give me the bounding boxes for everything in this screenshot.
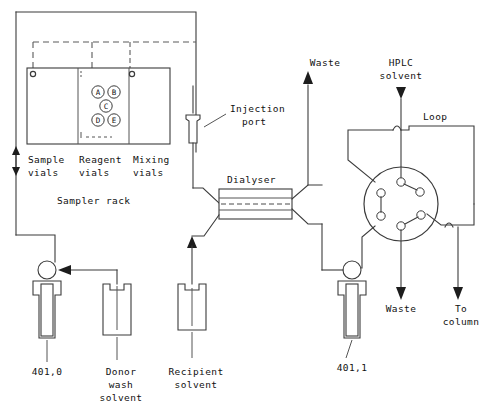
- hplc-solvent-arrowhead: [396, 87, 406, 99]
- donor-wash-label-line3: solvent: [100, 392, 143, 403]
- pump-401-1-label: 401,1: [337, 362, 368, 373]
- dialyser-outlet-upper: [292, 185, 322, 199]
- hplc-solvent-stream: HPLC solvent: [380, 57, 423, 182]
- reagent-vial-d-label: D: [96, 116, 101, 125]
- reagent-vial-c-label: C: [104, 102, 109, 111]
- reagent-vial-e[interactable]: E: [108, 114, 120, 126]
- to-column-label-line1: To: [455, 303, 467, 314]
- waste-top-label: Waste: [310, 57, 341, 68]
- reagent-vial-b-label: B: [112, 88, 117, 97]
- hplc-solvent-label-line2: solvent: [380, 70, 423, 81]
- injection-port-label-line2: port: [242, 116, 266, 127]
- donor-wash-label-line1: Donor: [106, 366, 137, 377]
- sample-vials-label-line1: Sample: [28, 154, 65, 165]
- schematic-diagram: A B C D E: [0, 0, 488, 409]
- donor-wash-bottle-group: Donor wash solvent: [100, 270, 143, 403]
- valve-port-6[interactable]: [377, 189, 385, 197]
- sampler-rack-label: Sampler rack: [57, 195, 130, 206]
- rack-tray-box: [27, 68, 170, 144]
- rack-travel-arrow-up: [12, 146, 20, 155]
- valve-port-5[interactable]: [377, 212, 385, 220]
- reagent-vial-c[interactable]: C: [100, 100, 112, 112]
- hplc-solvent-label-line1: HPLC: [389, 57, 413, 68]
- injection-port-group: Injection port: [186, 86, 285, 203]
- reagent-vials-label-line1: Reagent: [79, 154, 122, 165]
- injection-port-to-dialyser: [193, 188, 219, 203]
- pump-401-1-head[interactable]: [343, 261, 361, 279]
- injection-port-body: [186, 115, 200, 143]
- pump-401-1-plunger: [346, 284, 358, 336]
- valve-rotor-channel-2: [405, 217, 418, 224]
- valve-port-4[interactable]: [397, 222, 405, 230]
- mixing-vials-label-line2: vials: [133, 167, 164, 178]
- dialyser-group: Dialyser: [192, 174, 322, 236]
- reagent-vial-d[interactable]: D: [92, 114, 104, 126]
- valve-port-3[interactable]: [417, 211, 425, 219]
- recipient-label-line2: solvent: [175, 379, 218, 390]
- injection-valve-group[interactable]: Loop: [348, 111, 474, 241]
- dialyser-label: Dialyser: [227, 174, 276, 185]
- pump-401-0-label: 401,0: [32, 366, 63, 377]
- to-column-arrowhead: [453, 287, 463, 300]
- loop-hop-top: [393, 126, 401, 130]
- sampler-labels: Sample vials Reagent vials Mixing vials …: [28, 154, 170, 206]
- waste-bottom-label: Waste: [386, 303, 417, 314]
- recipient-solvent-bottle-group: Recipient solvent: [168, 236, 223, 390]
- enclosure-to-pump-line: [16, 235, 55, 262]
- reagent-vial-b[interactable]: B: [108, 86, 120, 98]
- injection-port-label-line1: Injection: [230, 103, 285, 114]
- injection-port-leader: [204, 114, 226, 127]
- pump-401-1-leader: [346, 340, 352, 358]
- valve-waste-arrowhead: [396, 287, 406, 300]
- loop-path-left: [348, 130, 393, 182]
- valve-rotor-channel-1: [404, 184, 417, 190]
- reagent-vial-a-label: A: [96, 88, 101, 97]
- donor-wash-label-line2: wash: [109, 379, 133, 390]
- waste-top-stream: Waste: [303, 57, 340, 185]
- loop-path-right: [401, 126, 474, 204]
- recipient-label-line1: Recipient: [168, 366, 223, 377]
- dialyser-outlet-lower: [292, 209, 322, 224]
- reagent-vials-label-line2: vials: [79, 167, 110, 178]
- schematic-canvas: A B C D E: [0, 0, 488, 409]
- waste-top-arrowhead: [303, 71, 313, 84]
- sample-vials-label-line2: vials: [28, 167, 59, 178]
- reagent-vial-e-label: E: [112, 116, 117, 125]
- recipient-inlet-to-dialyser: [192, 215, 219, 236]
- valve-port-2[interactable]: [416, 188, 424, 196]
- valve-port-1[interactable]: [397, 178, 405, 186]
- pump-401-0-head[interactable]: [38, 261, 56, 279]
- sampler-rack-tray: [27, 68, 170, 144]
- pump-401-1-group[interactable]: 401,1: [322, 224, 367, 373]
- loop-label: Loop: [423, 111, 447, 122]
- pump-401-0-plunger: [41, 284, 53, 336]
- to-column-label-line2: column: [443, 316, 480, 327]
- reagent-vial-a[interactable]: A: [92, 86, 104, 98]
- pump-401-0-inlet-arrowhead: [58, 265, 71, 275]
- mixing-vials-label-line1: Mixing: [133, 154, 170, 165]
- rack-travel-arrow: [12, 146, 20, 176]
- rack-travel-arrow-down: [12, 167, 20, 176]
- valve-lower-connections: Waste To column: [344, 226, 479, 327]
